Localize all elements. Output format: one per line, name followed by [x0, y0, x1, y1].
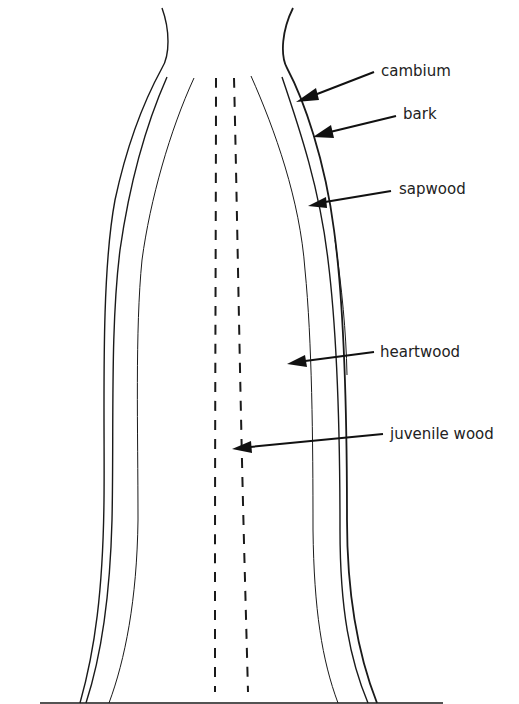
juvenile-wood-left-dashed	[215, 78, 216, 692]
label-sapwood: sapwood	[399, 180, 466, 198]
right-heartwood-boundary	[251, 76, 338, 703]
left-bark-outline	[80, 8, 168, 703]
sapwood-arrow	[308, 191, 391, 208]
bark-arrow	[313, 116, 396, 138]
right-cambium-line	[282, 77, 368, 703]
heartwood-arrow	[287, 352, 374, 367]
label-bark: bark	[403, 105, 437, 123]
juvenile-wood-right-dashed	[234, 78, 248, 692]
label-cambium: cambium	[381, 62, 451, 80]
tree-stem-section-diagram: cambium bark sapwood heartwood juvenile …	[0, 0, 519, 704]
juvenile-wood-arrow	[232, 434, 383, 453]
label-heartwood: heartwood	[380, 343, 460, 361]
cambium-arrow	[296, 72, 374, 102]
label-juvenile-wood: juvenile wood	[389, 425, 494, 443]
right-bark-outline	[283, 8, 377, 703]
